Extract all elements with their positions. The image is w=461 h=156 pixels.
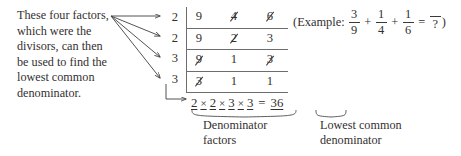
equation-factor-3: 3 [228,96,234,110]
ladder-cell-r1c1: 9 [190,7,208,27]
equation-factors-group: 2×2×3×3 [191,96,253,110]
times-sign-1: × [200,97,206,109]
ladder-cell-r4c1: 3 [190,72,208,92]
times-sign-2: × [219,97,225,109]
example-label: Example: [297,15,344,30]
equals-sign: = [418,16,425,28]
fraction-denominator: 9 [349,24,359,36]
ladder-row-2: 9 2 3 [186,29,288,51]
division-ladder: 9 4 6 9 2 3 9 1 3 3 1 1 [186,7,288,92]
example-expression: ( Example: 3 9 + 1 4 + 1 6 = ? ) [293,6,446,38]
caption-denominator-factors: Denominator factors [203,118,307,149]
fraction-denominator: 6 [403,24,413,36]
fraction-numerator: 3 [349,8,359,20]
ladder-cell-r1c2: 4 [225,7,243,27]
arrow-fan-icon [108,6,170,92]
ladder-row-3: 9 1 3 [186,50,288,72]
ladder-cell-r4c3: 1 [261,72,279,92]
caption-right-line-1: Lowest common [320,118,432,133]
ladder-row-4: 3 1 1 [186,72,288,94]
ladder-cell-r3c2: 1 [225,50,243,70]
ladder-cell-r2c3: 3 [261,29,279,49]
divisor-1: 2 [168,7,182,28]
ladder-cell-r3c1: 9 [190,50,208,70]
fraction-numerator: 1 [376,8,386,20]
ladder-cell-r3c3: 3 [261,50,279,70]
fraction-one-fourth: 1 4 [376,8,387,35]
ladder-cell-r2c1: 9 [190,29,208,49]
divisor-2: 2 [168,28,182,49]
fraction-three-ninths: 3 9 [349,8,360,35]
equation-product: 36 [271,96,284,110]
times-sign-3: × [238,97,244,109]
fraction-numerator: 1 [403,8,413,20]
plus-sign-1: + [364,16,371,28]
fraction-unknown-result: ? [430,14,441,29]
equation-factor-1: 2 [191,96,197,110]
ladder-cell-r2c2: 2 [225,29,243,49]
ladder-cell-r1c3: 6 [261,7,279,27]
lcd-division-ladder-figure: These four factors, which were the divis… [0,0,461,156]
plus-sign-2: + [391,16,398,28]
fraction-one-sixth: 1 6 [403,8,414,35]
fraction-denominator: ? [430,18,440,30]
divisor-3: 3 [168,48,182,69]
ladder-row-1: 9 4 6 [186,7,288,29]
product-equation: 2×2×3×3=36 [191,96,283,111]
caption-left-line-2: factors [203,133,307,148]
equation-factor-4: 3 [247,96,253,110]
equation-equals-sign: = [258,96,265,110]
equation-factor-2: 2 [210,96,216,110]
caption-right-line-2: denominator [320,133,432,148]
caption-lowest-common-denominator: Lowest common denominator [320,118,432,149]
divisor-column: 2 2 3 3 [168,7,182,89]
caption-left-line-1: Denominator [203,118,307,133]
example-close-paren: ) [442,16,446,28]
fraction-denominator: 4 [376,24,386,36]
ladder-cell-r4c2: 1 [225,72,243,92]
